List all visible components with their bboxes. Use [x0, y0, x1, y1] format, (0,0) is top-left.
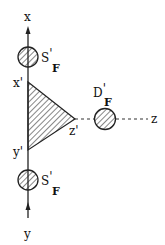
detector-subscript: F	[104, 96, 112, 109]
diagram-canvas: x y z S' F S' F D' F x' y' z'	[0, 0, 165, 245]
lower-source-subscript: F	[52, 185, 60, 198]
detector-circle	[95, 109, 116, 130]
y-arrow-icon	[26, 202, 31, 210]
upper-source-label: S'	[41, 47, 53, 65]
lower-source-circle	[18, 170, 38, 190]
y-prime-label: y'	[12, 145, 23, 159]
hatched-triangle	[28, 82, 75, 150]
x-prime-label: x'	[13, 76, 23, 90]
x-arrow-icon	[26, 26, 31, 34]
lower-source-label: S'	[41, 170, 53, 188]
y-axis-label: y	[23, 227, 31, 241]
x-axis-label: x	[24, 10, 31, 24]
z-prime-label: z'	[69, 124, 79, 138]
upper-source-subscript: F	[52, 62, 60, 75]
upper-source-circle	[18, 47, 38, 67]
z-axis-label: z	[151, 112, 157, 126]
